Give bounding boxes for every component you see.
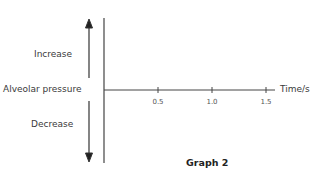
tick-label-1-5: 1.5 — [260, 98, 271, 106]
arrow-up-icon — [86, 19, 93, 28]
y-axis-label: Alveolar pressure — [3, 84, 81, 94]
graph-title: Graph 2 — [186, 157, 228, 168]
increase-label: Increase — [34, 49, 72, 59]
direction-arrows — [86, 19, 93, 162]
tick-label-0-5: 0.5 — [152, 98, 163, 106]
arrow-down-icon — [86, 153, 93, 162]
decrease-label: Decrease — [31, 119, 73, 129]
tick-label-1-0: 1.0 — [206, 98, 217, 106]
x-axis-label: Time/s — [280, 84, 310, 94]
